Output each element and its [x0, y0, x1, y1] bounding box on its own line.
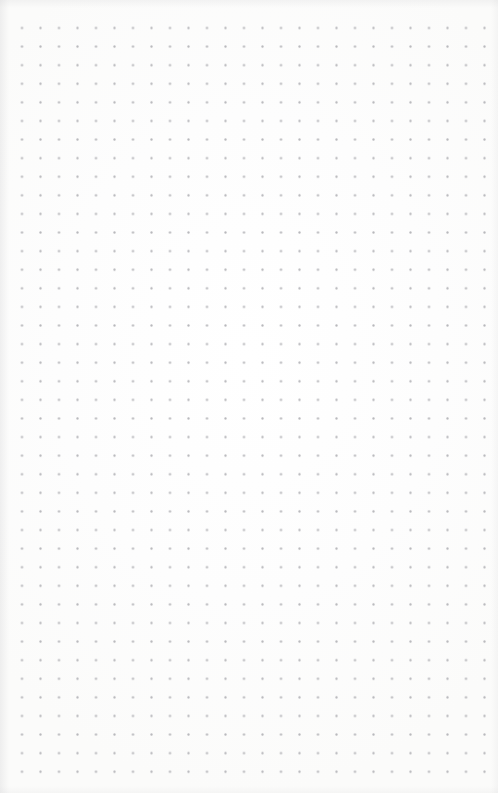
dot-grid-page	[0, 0, 498, 793]
dot-grid-pattern	[0, 0, 498, 793]
paper-background	[0, 0, 498, 793]
scan-edge-vignette	[0, 0, 498, 793]
